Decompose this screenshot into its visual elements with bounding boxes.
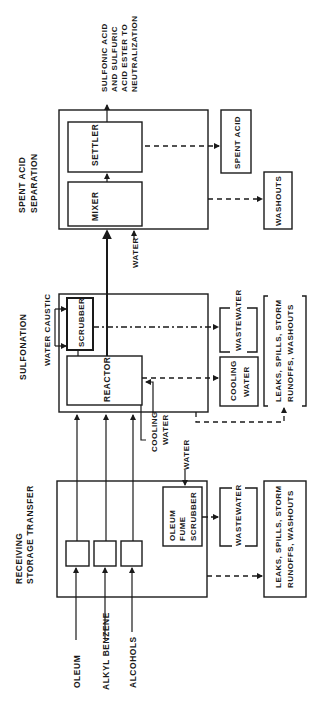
settler-label: SETTLER [90,124,100,166]
wastewater-sulfonation-label: WASTEWATER [234,289,243,351]
cooling-water-in-line2: WATER [161,414,170,445]
cooling-water-out-line1: COOLING [229,360,238,401]
receiving-title-line1: RECEIVING [14,533,24,584]
mixer-label: MIXER [90,191,100,221]
product-output-label: SULFONIC ACID AND SULFURIC ACID ESTER TO… [100,15,139,92]
product-line2: AND SULFURIC [110,26,119,92]
alkyl-benzene-tank [94,541,116,566]
product-line4: NEUTRALIZATION [130,15,139,92]
spent-acid-separation-box [59,110,208,229]
leaks-sulfonation-line2: RUNOFFS, WASHOUTS [286,304,295,402]
cooling-water-in-line1: COOLING [150,411,159,452]
sulfonation-section: SULFONATION WATER CAUSTIC SCRUBBER REACT… [18,289,306,452]
cooling-water-return-line [141,405,146,440]
sulfonation-to-leaks-line [196,409,284,422]
receiving-section: RECEIVING STORAGE TRANSFER OLEUM FUME SC… [14,439,306,597]
leaks-sulfonation-box [264,296,306,406]
water-receiving-label: WATER [182,439,191,470]
product-line1: SULFONIC ACID [100,23,109,92]
receiving-title-line2: STORAGE TRANSFER [25,485,35,584]
spent-acid-title-line2: SEPARATION [29,153,39,213]
water-spent-acid-label: WATER [131,237,140,268]
cooling-water-into-reactor [146,382,153,413]
washouts-label: WASHOUTS [274,176,283,226]
alcohols-label: ALCOHOLS [128,636,138,688]
wastewater-receiving-label: WASTEWATER [234,484,243,546]
oleum-fume-scrubber-line2: FUME [178,516,187,541]
leaks-receiving-box [264,481,306,597]
leaks-sulfonation-line1: LEAKS, SPILLS, STORM [274,299,283,402]
settler-box [68,122,142,172]
process-flow-diagram: RECEIVING STORAGE TRANSFER OLEUM FUME SC… [0,0,315,706]
oleum-tank [66,541,89,566]
cooling-water-out-line2: WATER [242,366,251,397]
spent-acid-label: SPENT ACID [233,116,242,169]
spent-acid-section: SPENT ACID SEPARATION SETTLER MIXER SPEN… [17,105,292,229]
mixer-box [68,182,142,226]
alkyl-benzene-label: ALKYL BENZENE [101,612,111,690]
product-line3: ACID ESTER TO [120,24,129,92]
sulfonation-title: SULFONATION [18,314,28,380]
water-caustic-label: WATER CAUSTIC [43,293,52,366]
leaks-receiving-line1: LEAKS, SPILLS, STORM [274,485,283,588]
oleum-label: OLEUM [72,655,82,688]
raw-material-inputs: OLEUM ALKYL BENZENE ALCOHOLS [72,415,138,690]
oleum-fume-scrubber-line3: SCRUBBER [189,492,198,541]
scrubber-label: SCRUBBER [77,298,86,347]
cooling-water-out-box [220,357,258,406]
reactor-label: REACTOR [102,357,112,402]
leaks-receiving-line2: RUNOFFS, WASHOUTS [286,490,295,588]
alcohols-tank [121,541,142,566]
spent-acid-title-line1: SPENT ACID [17,157,27,213]
oleum-fume-scrubber-line1: OLEUM [168,510,177,541]
